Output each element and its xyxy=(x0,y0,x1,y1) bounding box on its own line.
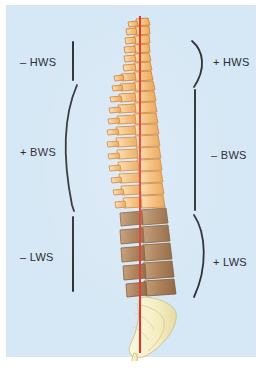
sacrum-coccyx-region xyxy=(129,297,176,361)
marker-bracket-right-lws xyxy=(188,215,214,299)
marker-bracket-left-bws xyxy=(58,85,82,213)
diagram-panel: – HWS + BWS – LWS + HWS – BWS + LWS xyxy=(6,5,256,357)
cervical-region xyxy=(123,18,152,71)
marker-line-left-hws xyxy=(72,41,74,81)
marker-line-right-bws xyxy=(194,89,196,211)
lumbar-region xyxy=(120,208,176,297)
label-plus-lws: + LWS xyxy=(213,256,247,268)
figure-root: – HWS + BWS – LWS + HWS – BWS + LWS xyxy=(0,0,268,372)
plumb-line xyxy=(139,16,141,353)
label-minus-hws: – HWS xyxy=(20,56,56,68)
marker-line-left-lws xyxy=(72,216,74,292)
marker-bracket-right-hws xyxy=(188,41,212,89)
label-plus-bws: + BWS xyxy=(20,146,56,158)
label-minus-bws: – BWS xyxy=(211,149,247,161)
label-minus-lws: – LWS xyxy=(20,251,54,263)
thoracic-region xyxy=(107,71,165,208)
label-plus-hws: + HWS xyxy=(213,56,250,68)
